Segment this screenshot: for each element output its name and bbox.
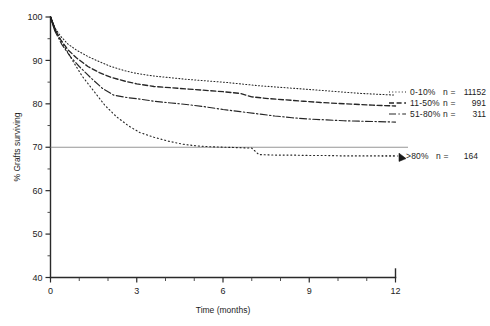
y-tick-label-60: 60 bbox=[32, 186, 42, 196]
series-group bbox=[51, 17, 396, 156]
x-tick-label-0: 0 bbox=[48, 286, 53, 296]
x-tick-label-12: 12 bbox=[390, 286, 400, 296]
legend: 0-10% n = 11152 11-50% n = 991 51-80% n … bbox=[406, 87, 486, 161]
x-tick-group: 036912 bbox=[48, 278, 401, 296]
legend-n-label-0: n = bbox=[443, 87, 456, 97]
survival-chart: 405060708090100 036912 % Grafts survivin… bbox=[0, 0, 490, 326]
legend-n-value-1: 991 bbox=[472, 98, 486, 108]
y-tick-label-50: 50 bbox=[32, 229, 42, 239]
y-tick-label-100: 100 bbox=[27, 12, 42, 22]
y-tick-label-90: 90 bbox=[32, 56, 42, 66]
y-tick-label-70: 70 bbox=[32, 142, 42, 152]
legend-n-label-2: n = bbox=[443, 109, 456, 119]
series-line-0-10% bbox=[51, 17, 396, 95]
legend-n-value-0: 11152 bbox=[464, 87, 487, 97]
x-tick-label-3: 3 bbox=[134, 286, 139, 296]
x-axis-title: Time (months) bbox=[196, 305, 251, 315]
series-line-11-50% bbox=[51, 17, 396, 106]
y-tick-label-80: 80 bbox=[32, 99, 42, 109]
legend-n-value-2: 311 bbox=[472, 109, 486, 119]
y-tick-label-40: 40 bbox=[32, 273, 42, 283]
x-tick-label-6: 6 bbox=[220, 286, 225, 296]
legend-n-label-1: n = bbox=[443, 98, 456, 108]
legend-n-value-3: 164 bbox=[464, 151, 478, 161]
legend-label-1: 11-50% bbox=[410, 98, 440, 108]
legend-label-3: >80% bbox=[406, 151, 429, 161]
legend-arrow-icon bbox=[399, 153, 406, 161]
series-line-51-80% bbox=[51, 17, 396, 122]
legend-label-0: 0-10% bbox=[410, 87, 436, 97]
series-line->80% bbox=[51, 17, 396, 156]
y-tick-group: 405060708090100 bbox=[27, 12, 50, 283]
plot-area: 405060708090100 036912 % Grafts survivin… bbox=[0, 0, 490, 326]
y-axis-title: % Grafts surviving bbox=[12, 112, 22, 181]
legend-label-2: 51-80% bbox=[410, 109, 441, 119]
legend-n-label-3: n = bbox=[436, 151, 449, 161]
legend-marker-group bbox=[382, 92, 406, 161]
x-tick-label-9: 9 bbox=[307, 286, 312, 296]
